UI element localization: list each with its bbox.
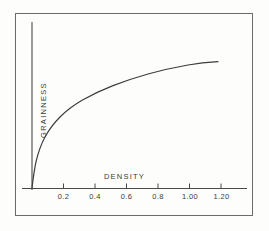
figure-container: GRAINNESS DENSITY 0.2 0.4 0.6 0.8 1.00 1… bbox=[0, 0, 269, 231]
x-tick-label-1: 0.4 bbox=[89, 192, 101, 201]
x-tick-label-2: 0.6 bbox=[121, 192, 133, 201]
x-tick-label-0: 0.2 bbox=[58, 192, 70, 201]
x-tick-label-5: 1.20 bbox=[213, 192, 229, 201]
x-axis-ticks bbox=[64, 184, 222, 189]
graininess-density-curve bbox=[32, 62, 218, 188]
figure-border-frame bbox=[16, 14, 253, 216]
x-tick-label-4: 1.00 bbox=[182, 192, 198, 201]
x-tick-label-3: 0.8 bbox=[152, 192, 164, 201]
y-axis-title: GRAINNESS bbox=[39, 82, 48, 138]
x-axis-title: DENSITY bbox=[104, 172, 145, 181]
